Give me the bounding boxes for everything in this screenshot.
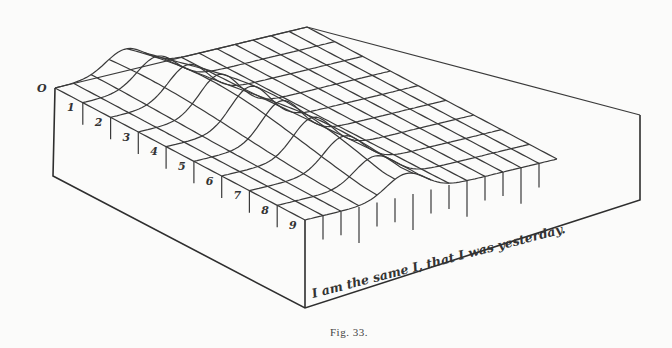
wave-surface-grid	[55, 27, 557, 220]
grid-line-across	[73, 83, 323, 216]
box-outline	[53, 88, 640, 308]
axis-number-label: 1	[67, 101, 75, 114]
grid-line-across	[289, 31, 539, 163]
axis-number-label: 5	[178, 160, 186, 173]
axis-number-label: 2	[94, 116, 103, 129]
grid-line-across	[199, 53, 449, 183]
grid-line-across	[109, 60, 359, 206]
origin-label: O	[37, 82, 47, 95]
grid-line-across	[271, 36, 521, 168]
axis-number-labels: 123456789	[67, 101, 297, 231]
axis-number-label: 4	[150, 145, 158, 158]
grid-line-across	[307, 27, 557, 159]
grid-line-across	[127, 49, 377, 196]
axis-number-label: 6	[206, 175, 214, 188]
axis-number-label: 7	[234, 189, 242, 202]
grid-line-across	[217, 49, 467, 181]
axis-number-label: 3	[122, 131, 130, 144]
axis-number-label: 9	[289, 219, 297, 232]
depth-tick-marks	[83, 103, 539, 243]
figure-caption: Fig. 33.	[330, 326, 368, 338]
block-edges	[53, 27, 640, 308]
block-diagram-figure: O 123456789 I am the same I, that I was …	[0, 0, 672, 348]
grid-line-across	[55, 88, 305, 220]
axis-number-label: 8	[261, 204, 269, 217]
back-edges	[55, 27, 640, 115]
grid-line-across	[181, 57, 431, 180]
front-face-caption: I am the same I, that I was yesterday.	[309, 221, 567, 301]
